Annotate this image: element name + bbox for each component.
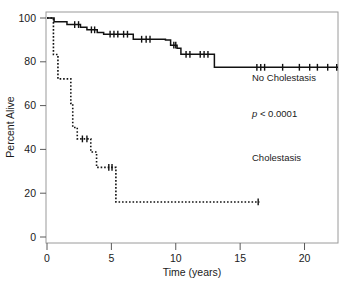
kaplan-meier-figure: 020406080100 05101520 Time (years) Perce… xyxy=(0,0,353,283)
pvalue-annotation: p < 0.0001 xyxy=(251,108,297,119)
y-tick-label: 20 xyxy=(24,187,36,199)
y-tick-label: 60 xyxy=(24,99,36,111)
x-tick-label: 15 xyxy=(234,252,246,264)
pvalue-value: < 0.0001 xyxy=(257,108,297,119)
y-tick-label: 40 xyxy=(24,143,36,155)
x-tick-label: 20 xyxy=(299,252,311,264)
y-tick-label: 100 xyxy=(18,12,36,24)
y-axis-label: Percent Alive xyxy=(4,96,16,157)
survival-chart: 020406080100 05101520 Time (years) Perce… xyxy=(0,0,353,283)
no-cholestasis-annotation: No Cholestasis xyxy=(252,72,316,83)
x-tick-label: 0 xyxy=(44,252,50,264)
x-tick-label: 10 xyxy=(170,252,182,264)
x-axis-label: Time (years) xyxy=(163,266,222,278)
y-tick-label: 0 xyxy=(30,231,36,243)
chart-background xyxy=(0,0,353,283)
y-tick-label: 80 xyxy=(24,55,36,67)
x-tick-label: 5 xyxy=(108,252,114,264)
cholestasis-annotation: Cholestasis xyxy=(252,152,301,163)
